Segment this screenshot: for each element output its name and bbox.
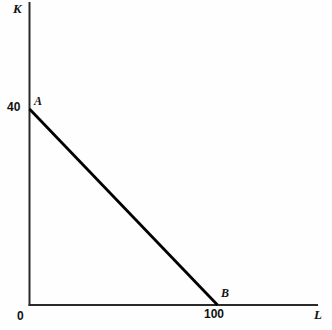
x-axis-label: L [314,308,322,321]
chart-figure: K L A B 40 0 100 [0,0,332,330]
x-tick-100: 100 [204,308,224,320]
origin-label: 0 [17,310,24,322]
y-tick-40: 40 [7,101,20,113]
y-axis-label: K [13,2,22,15]
chart-background [0,0,332,330]
point-a-label: A [34,95,42,107]
point-b-label: B [221,287,229,299]
chart-plot-area [0,0,332,330]
